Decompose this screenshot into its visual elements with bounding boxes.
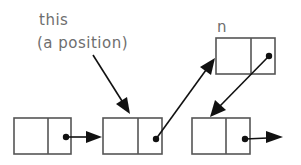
list-node-3	[192, 118, 250, 154]
arrow-this-to-node2	[93, 55, 130, 114]
this-label: this	[39, 11, 68, 29]
list-node-n	[216, 38, 275, 74]
arrowhead-icon	[266, 131, 283, 143]
n-label: n	[217, 18, 227, 36]
arrowhead-icon	[200, 58, 215, 75]
node-box	[192, 118, 250, 154]
position-label: (a position)	[37, 34, 128, 52]
arrowhead-icon	[86, 131, 102, 143]
linked-list-diagram: this (a position) n	[0, 0, 301, 165]
list-node-2	[103, 118, 162, 154]
arrowhead-icon	[116, 97, 130, 114]
node-box	[103, 118, 162, 154]
node-box	[14, 118, 71, 154]
list-node-1	[14, 118, 71, 154]
